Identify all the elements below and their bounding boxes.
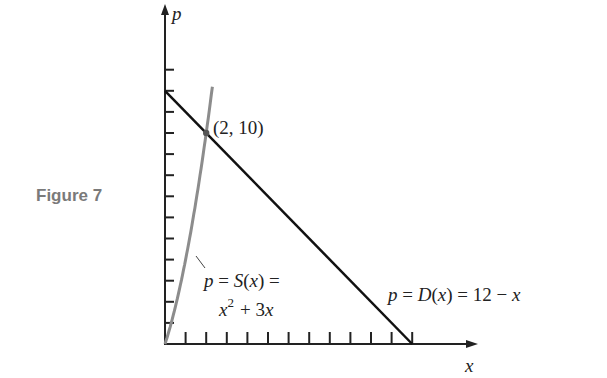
demand-line — [165, 91, 412, 344]
supply-label-line2: x2+ 3x — [218, 295, 274, 320]
demand-label: p = D(x) = 12 − x — [386, 284, 521, 306]
y-axis-arrow-icon — [161, 4, 169, 15]
equilibrium-point — [203, 130, 209, 136]
x-ticks — [186, 332, 413, 344]
supply-label-leader — [196, 256, 205, 268]
supply-label-line1: p = S(x) = — [202, 270, 280, 292]
y-ticks — [165, 70, 174, 323]
y-axis-label: p — [170, 3, 182, 24]
supply-demand-chart: p x (2, 10) p = S(x) = x2+ 3x p = D(x) =… — [0, 0, 607, 378]
x-axis-label: x — [464, 355, 474, 376]
equilibrium-label: (2, 10) — [213, 117, 264, 139]
x-axis-arrow-icon — [466, 340, 478, 348]
supply-curve — [165, 87, 212, 344]
